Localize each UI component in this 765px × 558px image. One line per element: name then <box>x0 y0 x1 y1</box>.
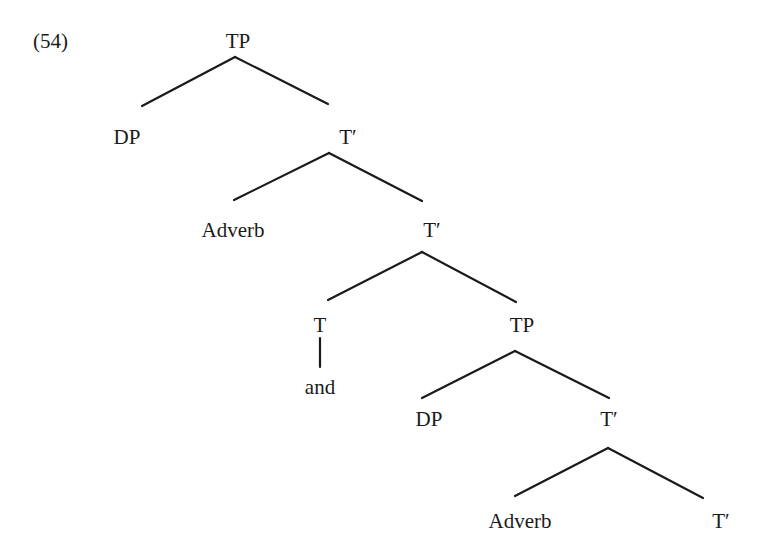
node-dp-embedded: DP <box>416 407 443 431</box>
branch-tp1-dp1 <box>142 57 235 106</box>
node-dp-subject: DP <box>114 125 141 149</box>
branch-tbar3-adv2 <box>515 448 608 496</box>
node-tbar-3: T′ <box>600 407 617 431</box>
node-adverb-2: Adverb <box>489 509 552 533</box>
tree-branches <box>0 0 765 558</box>
node-adverb-1: Adverb <box>202 218 265 242</box>
node-tbar-2: T′ <box>423 218 440 242</box>
branch-tp1-tbar1 <box>235 57 328 104</box>
branch-tbar1-tbar2 <box>329 153 422 201</box>
node-tp-embedded: TP <box>510 313 535 337</box>
node-t-head: T <box>314 313 327 337</box>
branch-tp2-dp2 <box>422 351 515 398</box>
branch-tbar2-t1 <box>328 252 422 300</box>
branch-tbar3-tbar4 <box>608 448 703 498</box>
branch-tbar1-adv1 <box>234 153 329 200</box>
branch-tp2-tbar3 <box>515 351 609 398</box>
branch-tbar2-tp2 <box>422 252 516 302</box>
node-tp-root: TP <box>226 29 251 53</box>
node-tbar-1: T′ <box>339 125 356 149</box>
node-and: and <box>305 375 335 399</box>
node-tbar-4: T′ <box>712 509 729 533</box>
